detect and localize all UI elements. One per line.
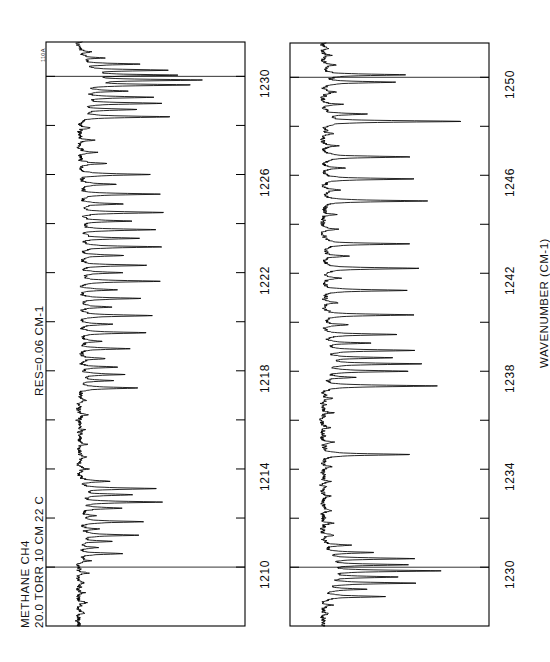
- tick-label: 1230: [503, 560, 517, 589]
- tick-label: 1218: [258, 364, 272, 393]
- tick-label: 1246: [503, 168, 517, 197]
- tick-label: 1238: [503, 364, 517, 393]
- tick-label: 1242: [503, 266, 517, 295]
- tick-label: 1210: [258, 560, 272, 589]
- tick-label: 1234: [503, 462, 517, 491]
- upper-panel-canvas: [0, 0, 272, 662]
- tick-label: 1222: [258, 266, 272, 295]
- upper-panel: [0, 0, 272, 662]
- tick-label: 1250: [503, 70, 517, 99]
- tick-label: 1230: [258, 69, 272, 98]
- tick-label: 1214: [258, 462, 272, 491]
- tick-label: 1226: [258, 167, 272, 196]
